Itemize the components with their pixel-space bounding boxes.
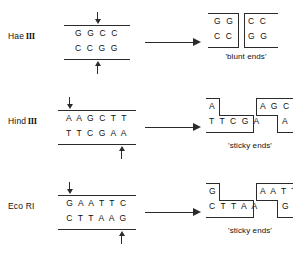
- ends-caption: 'sticky ends': [204, 226, 293, 235]
- left-fragment-bottom-sequence: C C: [214, 31, 233, 41]
- ends-caption: 'blunt ends': [200, 52, 292, 61]
- enzyme-label-eco-ri: EcoRI: [8, 201, 35, 211]
- substrate-duplex-hind-iii: A A G C T T T T C G A A: [58, 97, 136, 159]
- left-fragment: G C T T A A: [206, 182, 254, 218]
- left-fragment: G G C C: [208, 12, 239, 48]
- right-fragment-top-sequence: C C: [248, 16, 267, 26]
- down-arrow-icon: [66, 182, 73, 195]
- right-arrow-icon: [145, 208, 203, 217]
- enzyme-label-hind-iii: HindIII: [8, 116, 37, 126]
- substrate-duplex-eco-ri: G A A T T C C T T A A G: [58, 182, 136, 244]
- left-fragment-top-sequence: G: [209, 186, 217, 196]
- left-fragment-top-sequence: G G: [214, 16, 234, 26]
- left-fragment: A T T C G A: [206, 97, 254, 133]
- right-fragment: A A T T C G: [256, 182, 293, 218]
- bottom-strand-sequence: C C G G: [64, 43, 130, 53]
- right-fragment-bottom-sequence: G: [282, 201, 290, 211]
- enzyme-numeral: III: [26, 31, 35, 41]
- enzyme-name: Hind: [8, 116, 26, 126]
- right-fragment: C C G G: [244, 12, 278, 48]
- top-strand-sequence: G G C C: [64, 28, 130, 38]
- bottom-strand-rule: [58, 229, 136, 230]
- right-fragment-bottom-sequence: A: [282, 116, 289, 126]
- top-strand-sequence: G A A T T C: [58, 198, 136, 208]
- bottom-strand-rule: [58, 144, 136, 145]
- right-fragment-top-sequence: A A T T C: [260, 186, 293, 196]
- top-strand-rule: [58, 195, 136, 196]
- restriction-enzyme-diagram: HaeIII G G C C C C G G G G C C: [0, 0, 293, 257]
- enzyme-row-hind-iii: HindIII A A G C T T T T C G A A A: [0, 85, 293, 170]
- down-arrow-icon: [66, 97, 73, 110]
- top-strand-rule: [64, 25, 130, 26]
- bottom-strand-sequence: C T T A A G: [58, 213, 136, 223]
- up-arrow-icon: [118, 146, 125, 159]
- left-fragment-bottom-sequence: C T T A A: [209, 201, 259, 211]
- down-arrow-icon: [94, 12, 101, 25]
- right-arrow-icon: [145, 123, 203, 132]
- top-strand-rule: [58, 110, 136, 111]
- right-fragment-bottom-sequence: G G: [248, 31, 268, 41]
- left-fragment-top-sequence: A: [209, 101, 216, 111]
- enzyme-label-hae-iii: HaeIII: [8, 31, 35, 41]
- enzyme-numeral: RI: [26, 201, 35, 211]
- bottom-strand-sequence: T T C G A A: [58, 128, 136, 138]
- up-arrow-icon: [118, 231, 125, 244]
- enzyme-name: Eco: [8, 201, 23, 211]
- right-fragment-top-sequence: A G C T T: [260, 101, 293, 111]
- bottom-strand-rule: [64, 59, 130, 60]
- enzyme-row-eco-ri: EcoRI G A A T T C C T T A A G G C T T: [0, 170, 293, 255]
- enzyme-name: Hae: [8, 31, 24, 41]
- ends-caption: 'sticky ends': [204, 141, 293, 150]
- top-strand-sequence: A A G C T T: [58, 113, 136, 123]
- substrate-duplex-hae-iii: G G C C C C G G: [64, 12, 130, 74]
- products-hae-iii: G G C C C C G G: [208, 12, 288, 74]
- enzyme-numeral: III: [28, 116, 37, 126]
- right-arrow-icon: [145, 38, 203, 47]
- enzyme-row-hae-iii: HaeIII G G C C C C G G G G C C: [0, 0, 293, 85]
- up-arrow-icon: [94, 61, 101, 74]
- right-fragment: A G C T T A: [256, 97, 293, 133]
